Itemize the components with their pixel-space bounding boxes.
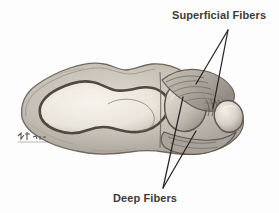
anatomical-illustration: [0, 0, 279, 213]
label-superficial-fibers: Superficial Fibers: [172, 10, 266, 21]
figure-container: Superficial Fibers Deep Fibers: [0, 0, 279, 213]
marrow-cavity: [40, 81, 169, 133]
label-deep-fibers: Deep Fibers: [113, 193, 177, 204]
condyle-head: [214, 101, 243, 133]
